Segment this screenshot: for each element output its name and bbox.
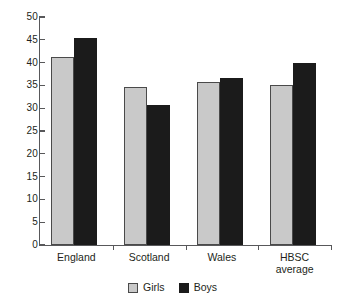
y-axis-tick-label: 35 (26, 80, 38, 90)
bar-chart-figure: 05101520253035404550 EnglandScotlandWale… (0, 0, 345, 303)
bar-boys-wales (220, 78, 243, 245)
chart-legend: GirlsBoys (0, 282, 345, 293)
bar-girls-scotland (124, 87, 147, 245)
y-axis-tick-label: 25 (26, 126, 38, 136)
x-axis-label-hbsc-average: HBSC average (258, 252, 331, 275)
y-axis-tick-label: 15 (26, 172, 38, 182)
x-axis-separator-tick (186, 245, 187, 250)
y-axis-tick-label: 5 (32, 217, 38, 227)
bar-boys-england (74, 38, 97, 245)
bar-boys-scotland (147, 105, 170, 245)
y-axis-tick-label: 40 (26, 58, 38, 68)
x-axis-label-england: England (40, 252, 113, 264)
bar-girls-wales (197, 82, 220, 245)
boys-swatch-icon (179, 283, 189, 293)
y-axis-tick-label: 10 (26, 194, 38, 204)
x-axis-label-scotland: Scotland (113, 252, 186, 264)
plot-area (40, 17, 331, 245)
bar-girls-hbsc-average (270, 85, 293, 245)
x-axis-separator-tick (258, 245, 259, 250)
legend-entry-boys: Boys (179, 282, 217, 293)
x-axis-separator-tick (331, 245, 332, 250)
y-axis-tick-label: 0 (32, 240, 38, 250)
legend-entry-girls: Girls (128, 282, 165, 293)
legend-label: Boys (194, 282, 217, 293)
x-axis-separator-tick (113, 245, 114, 250)
bar-boys-hbsc-average (293, 63, 316, 245)
bar-girls-england (51, 57, 74, 245)
x-axis-label-wales: Wales (186, 252, 259, 264)
y-axis-tick-label: 30 (26, 103, 38, 113)
girls-swatch-icon (128, 283, 138, 293)
legend-label: Girls (143, 282, 165, 293)
y-axis-tick-label: 50 (26, 12, 38, 22)
y-axis-tick-label: 45 (26, 35, 38, 45)
y-axis-tick-label: 20 (26, 149, 38, 159)
